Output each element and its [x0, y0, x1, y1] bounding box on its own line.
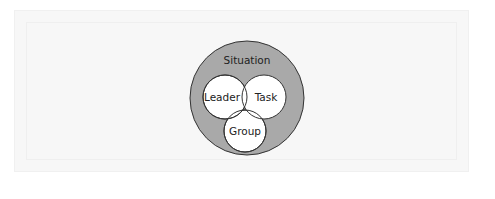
group-label: Group: [229, 125, 261, 137]
situational-leadership-diagram: Situation Leader Task Group: [0, 0, 495, 199]
situation-label: Situation: [224, 54, 271, 66]
leader-label: Leader: [204, 91, 241, 103]
task-label: Task: [254, 91, 279, 103]
